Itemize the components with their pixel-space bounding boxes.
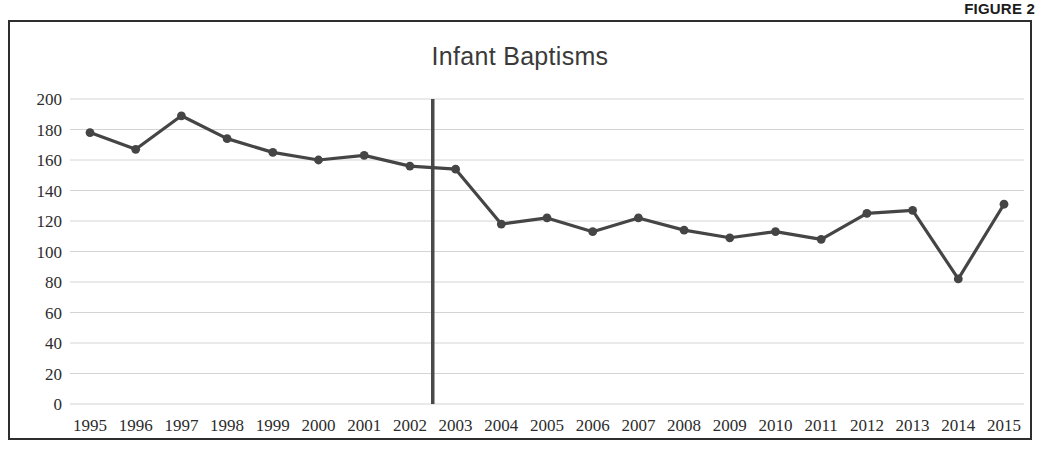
- x-axis-tick-label: 2001: [347, 414, 381, 438]
- data-point-marker: [360, 151, 369, 160]
- data-point-marker: [817, 235, 826, 244]
- data-point-marker: [954, 275, 963, 284]
- x-axis-tick-label: 2012: [850, 414, 884, 438]
- y-axis-tick-label: 20: [18, 365, 62, 382]
- x-axis-tick-label: 1997: [164, 414, 198, 438]
- y-axis-tick-labels: 200180160140120100806040200: [18, 99, 62, 404]
- x-axis-tick-label: 2015: [987, 414, 1021, 438]
- y-axis-tick-label: 100: [18, 243, 62, 260]
- x-axis-tick-label: 1998: [210, 414, 244, 438]
- data-point-marker: [86, 128, 95, 137]
- x-axis-tick-label: 2002: [393, 414, 427, 438]
- y-axis-tick-label: 40: [18, 335, 62, 352]
- data-point-marker: [543, 214, 552, 223]
- data-point-marker: [223, 134, 232, 143]
- data-point-marker: [1000, 200, 1009, 209]
- x-axis-tick-label: 2014: [941, 414, 975, 438]
- plot-area: [70, 99, 1024, 404]
- y-axis-tick-label: 200: [18, 91, 62, 108]
- x-axis-tick-label: 2005: [530, 414, 564, 438]
- x-axis-tick-label: 2011: [805, 414, 838, 438]
- data-point-marker: [908, 206, 917, 215]
- y-axis-tick-label: 60: [18, 304, 62, 321]
- x-axis-tick-label: 2013: [896, 414, 930, 438]
- x-axis-tick-label: 1996: [119, 414, 153, 438]
- chart-frame: Infant Baptisms 200180160140120100806040…: [8, 20, 1032, 440]
- data-point-marker: [406, 162, 415, 171]
- data-point-marker: [771, 227, 780, 236]
- y-axis-tick-label: 0: [18, 396, 62, 413]
- y-axis-tick-label: 120: [18, 213, 62, 230]
- data-point-marker: [588, 227, 597, 236]
- data-point-marker: [497, 220, 506, 229]
- y-axis-tick-label: 140: [18, 182, 62, 199]
- x-axis-tick-label: 2004: [484, 414, 518, 438]
- data-point-marker: [268, 148, 277, 157]
- line-chart-svg: [70, 99, 1024, 404]
- x-axis-tick-label: 2007: [621, 414, 655, 438]
- x-axis-tick-label: 2009: [713, 414, 747, 438]
- x-axis-tick-label: 2010: [759, 414, 793, 438]
- data-point-marker: [451, 165, 460, 174]
- figure-page: FIGURE 2 Infant Baptisms 200180160140120…: [0, 0, 1041, 451]
- x-axis-tick-label: 2008: [667, 414, 701, 438]
- data-point-marker: [725, 233, 734, 242]
- y-axis-tick-label: 180: [18, 121, 62, 138]
- data-point-marker: [177, 111, 186, 120]
- data-point-marker: [314, 156, 323, 165]
- y-axis-tick-label: 160: [18, 152, 62, 169]
- x-axis-tick-label: 2000: [302, 414, 336, 438]
- data-point-marker: [863, 209, 872, 218]
- x-axis-tick-label: 2003: [439, 414, 473, 438]
- y-axis-tick-label: 80: [18, 274, 62, 291]
- x-axis-tick-label: 1999: [256, 414, 290, 438]
- x-axis-tick-label: 1995: [73, 414, 107, 438]
- data-markers-group: [86, 111, 1009, 283]
- figure-number-label: FIGURE 2: [964, 0, 1035, 18]
- data-point-marker: [680, 226, 689, 235]
- x-axis-tick-labels: 1995199619971998199920002001200220032004…: [70, 414, 1024, 442]
- chart-title: Infant Baptisms: [10, 42, 1030, 71]
- data-point-marker: [131, 145, 140, 154]
- data-point-marker: [634, 214, 643, 223]
- gridlines-group: [70, 99, 1024, 404]
- x-axis-tick-label: 2006: [576, 414, 610, 438]
